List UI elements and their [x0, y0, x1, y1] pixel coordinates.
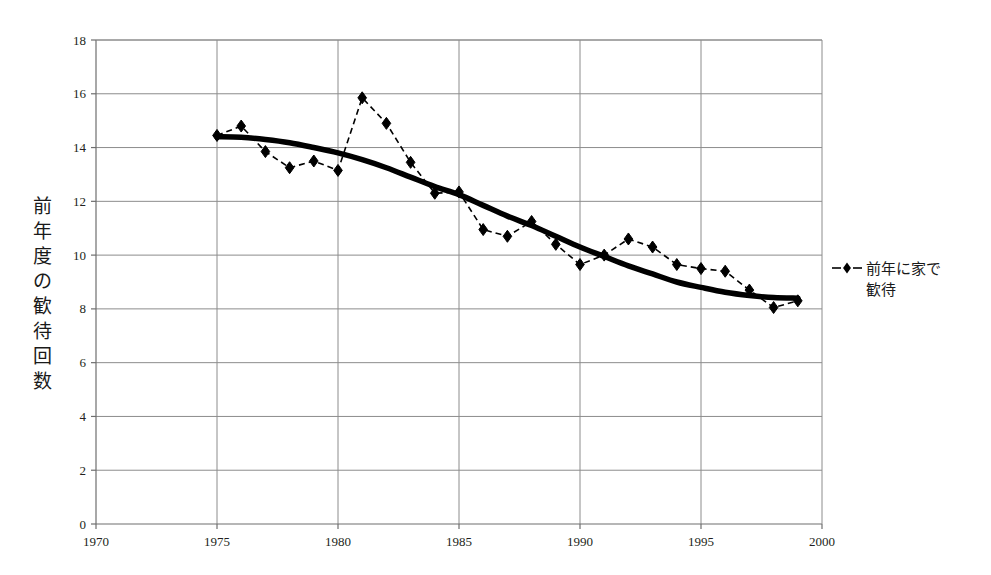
- y-axis-title-char: 前: [33, 195, 52, 217]
- y-axis-title-char: 歓: [33, 295, 52, 317]
- y-axis-title-char: 数: [33, 370, 52, 392]
- hospitality-line-chart: 024681012141618 197019751980198519901995…: [0, 0, 991, 575]
- y-axis-title-char: 待: [33, 320, 52, 342]
- x-tick-label: 1970: [83, 534, 109, 549]
- y-tick-label: 6: [80, 355, 87, 370]
- x-tick-label: 1985: [446, 534, 472, 549]
- y-tick-label: 14: [73, 140, 87, 155]
- y-tick-label: 0: [80, 517, 87, 532]
- y-tick-label: 12: [73, 194, 86, 209]
- y-tick-label: 18: [73, 33, 86, 48]
- y-axis-title-char: 回: [33, 345, 52, 367]
- y-tick-label: 8: [80, 301, 87, 316]
- y-axis-title-char: 度: [33, 245, 52, 267]
- y-tick-label: 16: [73, 86, 87, 101]
- x-tick-label: 1995: [688, 534, 714, 549]
- y-tick-label: 2: [80, 463, 87, 478]
- y-tick-label: 10: [73, 248, 86, 263]
- y-axis-title-char: 年: [33, 220, 52, 242]
- x-tick-label: 2000: [809, 534, 835, 549]
- legend-label-line1: 前年に家で: [866, 260, 941, 278]
- legend-label-line2: 歓待: [866, 281, 896, 299]
- chart-background: [0, 0, 991, 575]
- x-tick-label: 1975: [204, 534, 230, 549]
- y-axis-title-char: の: [33, 270, 52, 292]
- x-tick-label: 1980: [325, 534, 351, 549]
- y-tick-label: 4: [80, 409, 87, 424]
- chart-container: 024681012141618 197019751980198519901995…: [0, 0, 991, 575]
- x-tick-label: 1990: [567, 534, 593, 549]
